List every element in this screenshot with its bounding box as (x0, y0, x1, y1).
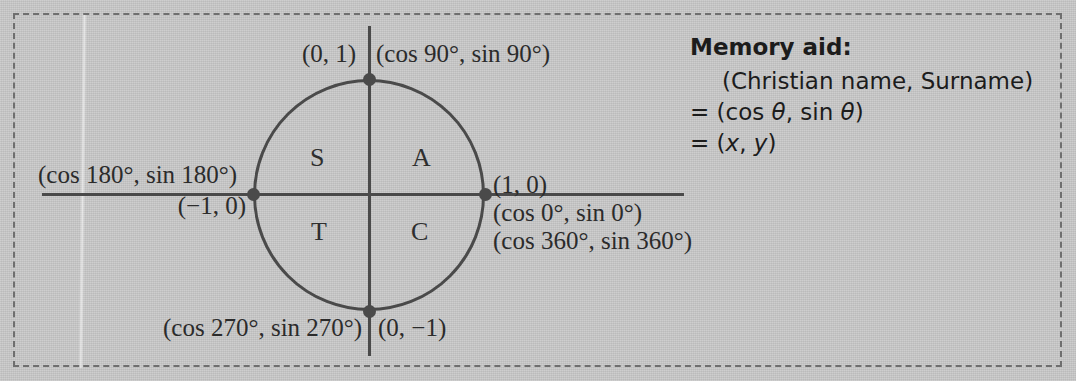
memory-aid-title: Memory aid: (690, 33, 1062, 62)
quadrant-letter-a: A (412, 145, 431, 171)
label-right-trig-zero: (cos 0°, sin 0°) (493, 199, 642, 228)
memory-aid-line2-prefix: = (cos (690, 99, 772, 125)
memory-aid-line3-suffix: ) (767, 130, 776, 156)
label-bottom-trig: (cos 270°, sin 270°) (163, 314, 362, 343)
label-right-cartesian: (1, 0) (493, 171, 547, 200)
memory-aid-line2-suffix: ) (855, 99, 864, 125)
label-right-trig-360: (cos 360°, sin 360°) (493, 227, 692, 256)
label-top-trig: (cos 90°, sin 90°) (376, 40, 550, 69)
x-symbol: x (726, 130, 740, 156)
theta-symbol-2: θ (841, 99, 855, 125)
memory-aid-block: Memory aid: (Christian name, Surname) = … (690, 33, 1062, 159)
point-270-dot (363, 305, 376, 318)
memory-aid-line-names: (Christian name, Surname) (690, 66, 1062, 97)
memory-aid-line3-prefix: = ( (690, 130, 726, 156)
y-symbol: y (754, 130, 768, 156)
quadrant-letter-t: T (311, 219, 327, 245)
memory-aid-line3-comma: , (739, 130, 754, 156)
quadrant-letter-s: S (310, 145, 324, 171)
label-left-cartesian: (−1, 0) (38, 192, 246, 221)
unit-circle-outline (253, 79, 485, 311)
memory-aid-line-xy: = (x, y) (690, 128, 1062, 159)
quadrant-letter-c: C (411, 219, 428, 245)
point-0-360-dot (479, 188, 492, 201)
memory-aid-line-trig: = (cos θ, sin θ) (690, 97, 1062, 128)
label-left-trig: (cos 180°, sin 180°) (38, 161, 237, 190)
memory-aid-line2-middle: , sin (786, 99, 841, 125)
theta-symbol-1: θ (772, 99, 786, 125)
point-180-dot (247, 188, 260, 201)
label-bottom-cartesian: (0, −1) (378, 314, 446, 343)
point-90-dot (363, 73, 376, 86)
figure-page: S A T C (0, 1) (cos 90°, sin 90°) (cos 1… (0, 0, 1076, 381)
label-top-cartesian: (0, 1) (302, 40, 356, 69)
